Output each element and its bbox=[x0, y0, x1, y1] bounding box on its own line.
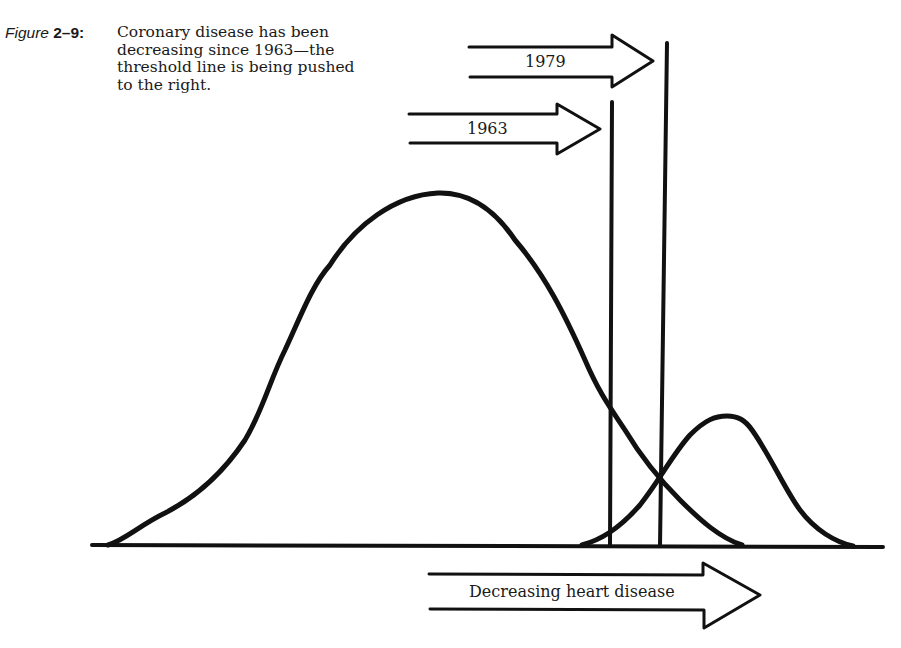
threshold-line-1963 bbox=[610, 102, 612, 546]
label-1979: 1979 bbox=[525, 52, 566, 71]
diagram-canvas bbox=[0, 0, 901, 648]
label-decreasing-heart-disease: Decreasing heart disease bbox=[469, 582, 675, 601]
disease-curve bbox=[582, 416, 853, 546]
label-1963: 1963 bbox=[467, 119, 508, 138]
baseline-axis bbox=[92, 545, 883, 547]
